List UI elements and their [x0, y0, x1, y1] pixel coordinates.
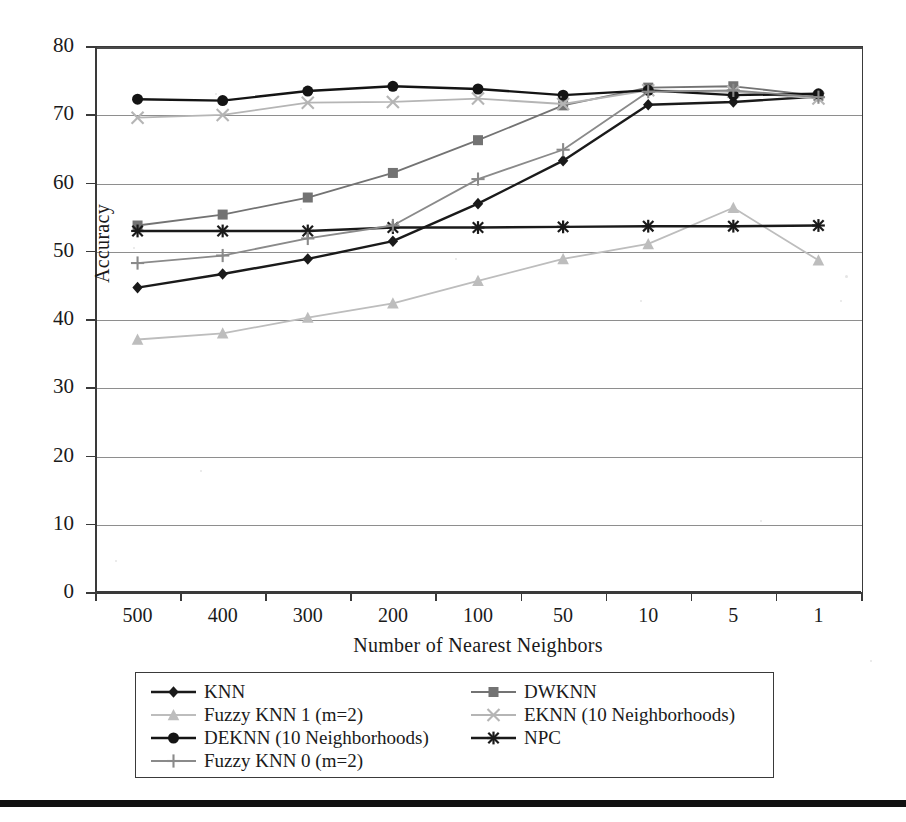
scan-speckle: [200, 470, 202, 472]
legend-swatch-plus-icon: [150, 753, 197, 769]
series-npc: [131, 219, 825, 237]
bottom-rule: [0, 800, 906, 807]
scan-speckle: [640, 300, 642, 302]
series-fuzzy-knn-0-m-2: [131, 84, 825, 270]
y-tick-label: 50: [28, 240, 74, 261]
x-tick-mark: [776, 592, 778, 601]
legend-swatch-x-icon: [470, 707, 517, 723]
legend-item-label: EKNN (10 Neighborhoods): [524, 705, 735, 725]
series-layer: [95, 46, 861, 592]
y-tick-label: 60: [28, 172, 74, 193]
x-tick-mark: [350, 592, 352, 601]
legend-item-label: Fuzzy KNN 0 (m=2): [204, 751, 363, 771]
y-tick-label: 40: [28, 308, 74, 329]
legend-row: Fuzzy KNN 1 (m=2)EKNN (10 Neighborhoods): [136, 703, 773, 726]
y-tick-label: 80: [28, 35, 74, 56]
legend-item-knn[interactable]: KNN: [136, 682, 466, 702]
legend-swatch-circle-icon: [150, 730, 197, 746]
scan-speckle: [300, 208, 302, 210]
y-tick-label: 0: [28, 581, 74, 602]
legend-item-dwknn[interactable]: DWKNN: [466, 682, 773, 702]
legend-row: DEKNN (10 Neighborhoods)NPC: [136, 726, 773, 749]
legend-item-npc[interactable]: NPC: [466, 728, 773, 748]
y-tick-label: 20: [28, 445, 74, 466]
legend-item-label: NPC: [524, 728, 561, 748]
scan-speckle: [840, 300, 842, 302]
x-tick-label: 5: [698, 604, 768, 626]
legend-swatch-square-icon: [470, 684, 517, 700]
legend-grid: KNNDWKNNFuzzy KNN 1 (m=2)EKNN (10 Neighb…: [136, 673, 773, 777]
x-axis-title: Number of Nearest Neighbors: [95, 634, 861, 657]
y-axis-title: Accuracy: [91, 154, 114, 334]
figure-container: 80706050403020100 500400300200100501051 …: [0, 0, 906, 822]
x-tick-mark: [606, 592, 608, 601]
series-knn: [132, 91, 823, 294]
scan-speckle: [115, 560, 117, 562]
legend-item-label: KNN: [204, 682, 245, 702]
legend-row: Fuzzy KNN 0 (m=2): [136, 749, 773, 772]
x-tick-label: 400: [188, 604, 258, 626]
scan-speckle: [455, 258, 457, 260]
scan-speckle: [133, 247, 135, 249]
legend-swatch-diamond-icon: [150, 684, 197, 700]
legend-item-label: DWKNN: [524, 682, 597, 702]
x-tick-label: 50: [528, 604, 598, 626]
legend-box: KNNDWKNNFuzzy KNN 1 (m=2)EKNN (10 Neighb…: [135, 672, 774, 778]
scan-speckle: [845, 275, 848, 278]
y-tick-label: 30: [28, 376, 74, 397]
x-tick-label: 1: [783, 604, 853, 626]
legend-swatch-triangle-icon: [150, 707, 197, 723]
x-tick-mark: [95, 592, 97, 601]
legend-row: KNNDWKNN: [136, 680, 773, 703]
x-tick-label: 100: [443, 604, 513, 626]
y-tick-label: 70: [28, 103, 74, 124]
x-tick-mark: [691, 592, 693, 601]
x-tick-mark: [180, 592, 182, 601]
x-tick-mark: [861, 592, 863, 601]
scan-speckle: [560, 96, 562, 98]
legend-item-label: Fuzzy KNN 1 (m=2): [204, 705, 363, 725]
x-tick-mark: [265, 592, 267, 601]
x-tick-label: 300: [273, 604, 343, 626]
scan-speckle: [760, 520, 762, 522]
x-tick-label: 10: [613, 604, 683, 626]
x-tick-mark: [521, 592, 523, 601]
legend-swatch-asterisk-icon: [470, 730, 517, 746]
legend-item-fuzzy-knn-1-m-2[interactable]: Fuzzy KNN 1 (m=2): [136, 705, 466, 725]
y-tick-label: 10: [28, 513, 74, 534]
legend-item-fuzzy-knn-0-m-2[interactable]: Fuzzy KNN 0 (m=2): [136, 751, 466, 771]
x-tick-mark: [435, 592, 437, 601]
legend-item-deknn-10-neighborhoods[interactable]: DEKNN (10 Neighborhoods): [136, 728, 466, 748]
legend-item-eknn-10-neighborhoods[interactable]: EKNN (10 Neighborhoods): [466, 705, 773, 725]
scan-speckle: [215, 93, 217, 95]
legend-item-label: DEKNN (10 Neighborhoods): [204, 728, 429, 748]
scan-speckle: [870, 660, 872, 662]
x-tick-label: 500: [103, 604, 173, 626]
x-tick-label: 200: [358, 604, 428, 626]
